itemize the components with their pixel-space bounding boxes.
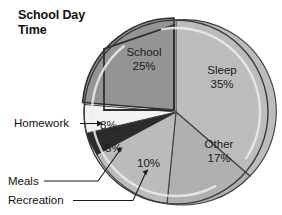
slice-label-sleep: Sleep 35% (196, 64, 248, 91)
slice-label-school: School 25% (113, 46, 175, 73)
slice-label-other: Other 17% (194, 138, 244, 165)
callout-label-meals: Meals (8, 176, 39, 188)
slice-label-homework-value: 8% (100, 119, 130, 133)
pie-chart-graphic (0, 0, 282, 215)
callout-label-homework: Homework (14, 118, 69, 130)
slice-label-recreation-value: 10% (137, 157, 171, 171)
pie-chart-figure: School Day Time (0, 0, 282, 215)
slice-label-meals-value: 5% (105, 142, 133, 156)
callout-label-recreation: Recreation (8, 195, 64, 207)
